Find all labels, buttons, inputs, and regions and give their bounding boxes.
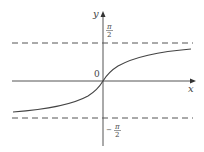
lower-asymptote-denominator: 2 [115,131,119,139]
lower-asymptote-sign: − [106,126,112,134]
arctan-graph: y x 0 π 2 − π 2 [0,0,204,152]
y-axis-arrow-icon [101,11,106,17]
lower-asymptote-numerator: π [114,123,120,131]
origin-label: 0 [94,69,100,79]
y-axis-label: y [92,8,99,19]
upper-asymptote-label: π 2 [106,23,113,39]
upper-asymptote-numerator: π [106,23,112,31]
upper-asymptote-denominator: 2 [107,31,111,39]
lower-asymptote-label: − π 2 [106,123,121,139]
x-axis-label: x [188,83,194,94]
